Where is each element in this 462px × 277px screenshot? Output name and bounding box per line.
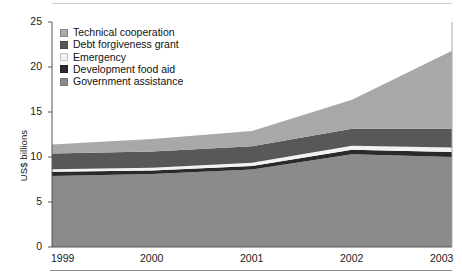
y-tick-marks-group: [48, 22, 52, 247]
x-tick-label: 2000: [140, 252, 163, 264]
y-tick-label: 25: [16, 15, 42, 27]
y-tick-label: 0: [16, 240, 42, 252]
legend-label: Technical cooperation: [73, 27, 175, 38]
legend-item: Technical cooperation: [60, 27, 183, 39]
legend-item: Government assistance: [60, 76, 183, 88]
x-tick-label: 2001: [240, 252, 263, 264]
x-tick-label: 2003: [430, 252, 453, 264]
legend-swatch-icon: [60, 29, 68, 37]
legend-swatch-icon: [60, 53, 68, 61]
legend-label: Debt forgiveness grant: [73, 39, 179, 50]
legend-swatch-icon: [60, 78, 68, 86]
legend-label: Development food aid: [73, 64, 175, 75]
legend-item: Emergency: [60, 51, 183, 63]
y-tick-label: 15: [16, 105, 42, 117]
y-tick-label: 20: [16, 60, 42, 72]
x-tick-label: 2002: [340, 252, 363, 264]
legend-label: Government assistance: [73, 76, 183, 87]
figure-container: US$ billions 0510152025 1999200020012002…: [0, 0, 462, 277]
legend-swatch-icon: [60, 41, 68, 49]
legend-swatch-icon: [60, 65, 68, 73]
x-tick-label: 1999: [51, 252, 74, 264]
y-tick-label: 5: [16, 195, 42, 207]
legend-item: Debt forgiveness grant: [60, 39, 183, 51]
legend-item: Development food aid: [60, 64, 183, 76]
y-tick-label: 10: [16, 150, 42, 162]
chart-legend: Technical cooperationDebt forgiveness gr…: [60, 27, 183, 88]
legend-label: Emergency: [73, 52, 126, 63]
